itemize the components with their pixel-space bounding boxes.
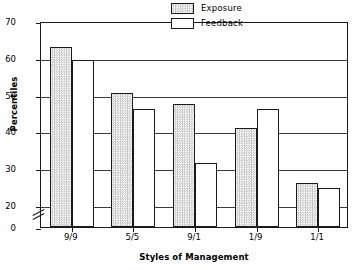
y-axis-tick: [36, 97, 41, 98]
bar-feedback-9-9: [72, 60, 94, 227]
axis-break-icon: [32, 209, 46, 221]
y-axis-tick-label: 20: [0, 202, 16, 211]
legend-swatch-exposure: [171, 3, 194, 14]
x-axis-tick-label: 1/1: [294, 233, 340, 242]
bar-feedback-1-9: [257, 109, 279, 227]
y-axis-tick: [36, 170, 41, 171]
bar-exposure-9-1: [173, 104, 195, 227]
y-axis-tick: [36, 23, 41, 24]
y-axis-tick: [36, 229, 41, 230]
legend-label-exposure: Exposure: [201, 2, 242, 15]
bar-exposure-5-5: [111, 93, 133, 227]
bar-feedback-5-5: [133, 109, 155, 227]
y-axis-tick-label: 40: [0, 128, 16, 137]
legend-item-feedback: Feedback: [171, 17, 281, 32]
bar-exposure-1-1: [296, 183, 318, 227]
y-axis-tick-label: 50: [0, 92, 16, 101]
y-axis-tick-label: 60: [0, 55, 16, 64]
bar-exposure-9-9: [50, 47, 72, 227]
x-axis-title: Styles of Management: [40, 252, 348, 262]
x-axis-tick-label: 1/9: [233, 233, 279, 242]
y-axis-tick: [36, 133, 41, 134]
legend-label-feedback: Feedback: [201, 17, 243, 30]
bar-feedback-1-1: [318, 188, 340, 227]
y-axis-tick: [36, 60, 41, 61]
x-axis-tick-label: 9/9: [48, 233, 94, 242]
x-axis-tick-label: 5/5: [109, 233, 155, 242]
y-axis-tick-label: 0: [0, 224, 16, 233]
legend-item-exposure: Exposure: [171, 2, 281, 17]
y-axis-tick-label: 70: [0, 18, 16, 27]
legend-swatch-feedback: [171, 18, 194, 29]
bar-exposure-1-9: [235, 128, 257, 227]
bar-feedback-9-1: [195, 163, 217, 227]
y-axis-tick: [36, 207, 41, 208]
x-axis-tick-label: 9/1: [171, 233, 217, 242]
y-axis-tick-label: 30: [0, 165, 16, 174]
bar-chart-figure: Percentiles Styles of Management Exposur…: [0, 0, 363, 270]
chart-legend: Exposure Feedback: [171, 2, 281, 32]
plot-area: [40, 22, 348, 228]
